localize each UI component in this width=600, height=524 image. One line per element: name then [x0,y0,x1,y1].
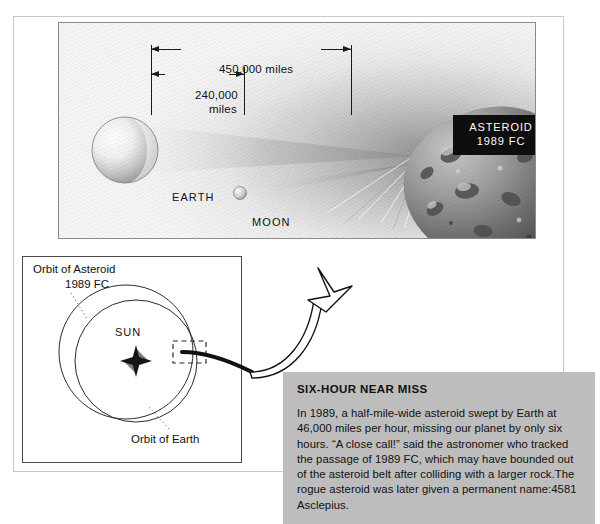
asteroid-orbit-label-line2: 1989 FC [65,278,109,290]
dimension-label-450000: 450,000 miles [219,63,293,75]
asteroid-illustration: 450,000 miles 240,000 miles EARTH MOON A… [58,22,536,239]
asteroid-nameplate: ASTEROID 1989 FC [453,115,536,155]
asteroid-orbit-circle [59,285,193,419]
asteroid-orbit-label-line1: Orbit of Asteroid [33,263,115,275]
earth-orbit-label: Orbit of Earth [131,433,199,445]
asteroid-nameplate-line2: 1989 FC [477,135,526,149]
caption-title: SIX-HOUR NEAR MISS [297,383,581,395]
moon-label: MOON [252,216,291,228]
dimension-label-240000-units: miles [209,103,237,115]
earth-label: EARTH [172,191,215,203]
dimension-label-240000: 240,000 [195,89,238,101]
asteroid-nameplate-line1: ASTEROID [469,121,532,135]
sun-star-icon [120,345,152,377]
caption-box: SIX-HOUR NEAR MISS In 1989, a half-mile-… [283,372,595,524]
orbit-diagram-artwork [23,257,241,462]
sun-label: SUN [115,326,141,338]
asteroid-orbit-leader [71,293,87,319]
near-miss-highlight-box [173,341,206,363]
caption-body: In 1989, a half-mile-wide asteroid swept… [297,406,581,513]
orbit-diagram-panel: Orbit of Asteroid 1989 FC SUN Orbit of E… [22,256,242,463]
